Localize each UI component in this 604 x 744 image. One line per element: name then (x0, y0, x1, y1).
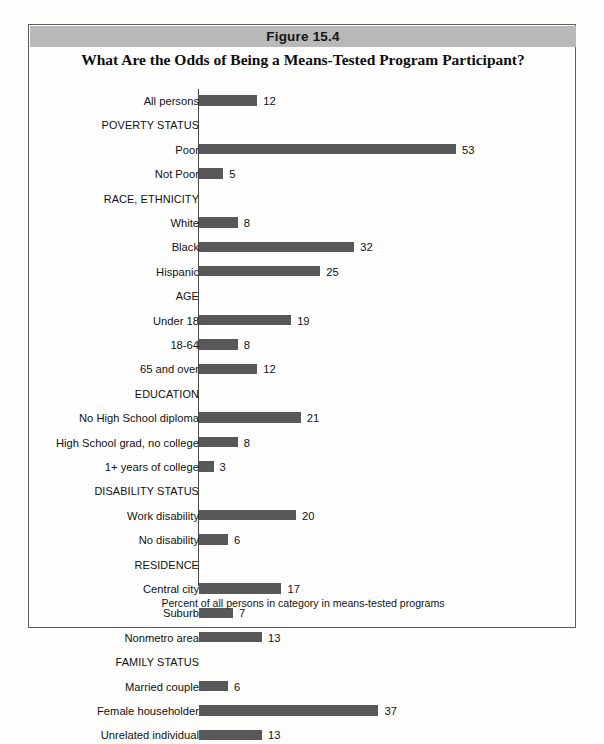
group-header-label: RESIDENCE (0, 553, 199, 577)
bar-category-label: 65 and over (0, 357, 199, 381)
bar (199, 437, 238, 448)
figure-number-band: Figure 15.4 (30, 26, 576, 47)
bar-category-label: Female householder (0, 699, 199, 723)
bar-row: Unrelated individual13 (29, 723, 577, 744)
bar-value-label: 3 (220, 455, 226, 479)
group-header-label: DISABILITY STATUS (0, 479, 199, 503)
bar (199, 339, 238, 350)
group-header-row: EDUCATION (29, 382, 577, 406)
bar-row: Nonmetro area13 (29, 626, 577, 650)
bar-value-label: 20 (302, 504, 314, 528)
bar (199, 608, 233, 619)
group-header-row: FAMILY STATUS (29, 650, 577, 674)
chart-footnote: Percent of all persons in category in me… (29, 597, 577, 609)
bar-category-label: No disability (0, 528, 199, 552)
bar-row: Under 1819 (29, 309, 577, 333)
bar-value-label: 25 (326, 260, 338, 284)
figure-title: What Are the Odds of Being a Means-Teste… (29, 51, 577, 69)
bar-category-label: 1+ years of college (0, 455, 199, 479)
bar (199, 412, 301, 423)
bar (199, 95, 257, 106)
bar-category-label: All persons (0, 89, 199, 113)
figure-number-label: Figure 15.4 (266, 29, 339, 44)
bar-row: High School grad, no college8 (29, 431, 577, 455)
bar-value-label: 12 (263, 89, 275, 113)
bar-category-label: Not Poor (0, 162, 199, 186)
bar-category-label: High School grad, no college (0, 431, 199, 455)
bar-row: All persons12 (29, 89, 577, 113)
bar-value-label: 53 (462, 138, 474, 162)
bar-row: 18-648 (29, 333, 577, 357)
bar-category-label: Work disability (0, 504, 199, 528)
bar-category-label: Poor (0, 138, 199, 162)
bar-value-label: 8 (244, 431, 250, 455)
figure-box: Figure 15.4 What Are the Odds of Being a… (28, 24, 576, 628)
bar-row: Poor53 (29, 138, 577, 162)
bar (199, 315, 291, 326)
bar (199, 217, 238, 228)
bar (199, 583, 281, 594)
bar-value-label: 37 (384, 699, 396, 723)
group-header-label: POVERTY STATUS (0, 113, 199, 137)
bar (199, 510, 296, 521)
bar-row: Not Poor5 (29, 162, 577, 186)
bar (199, 534, 228, 545)
bar (199, 242, 354, 253)
bar (199, 364, 257, 375)
bar-value-label: 8 (244, 333, 250, 357)
group-header-label: FAMILY STATUS (0, 650, 199, 674)
bar-category-label: Under 18 (0, 309, 199, 333)
bar (199, 632, 262, 643)
bar-value-label: 6 (234, 528, 240, 552)
bar-row: White8 (29, 211, 577, 235)
bar-value-label: 8 (244, 211, 250, 235)
bar-value-label: 5 (229, 162, 235, 186)
bar-category-label: Black (0, 235, 199, 259)
bar-category-label: Married couple (0, 675, 199, 699)
bar-value-label: 32 (360, 235, 372, 259)
bar-category-label: Unrelated individual (0, 723, 199, 744)
group-header-row: RESIDENCE (29, 553, 577, 577)
bar (199, 681, 228, 692)
bar-row: Married couple6 (29, 675, 577, 699)
group-header-row: AGE (29, 284, 577, 308)
bar-row: Female householder37 (29, 699, 577, 723)
bar-chart-plot: All persons12POVERTY STATUSPoor53Not Poo… (29, 89, 577, 589)
bar (199, 266, 320, 277)
bar (199, 168, 223, 179)
bar-row: Work disability20 (29, 504, 577, 528)
group-header-label: EDUCATION (0, 382, 199, 406)
bar-category-label: 18-64 (0, 333, 199, 357)
bar-value-label: 19 (297, 309, 309, 333)
bar-value-label: 12 (263, 357, 275, 381)
bar-value-label: 21 (307, 406, 319, 430)
bar-category-label: White (0, 211, 199, 235)
bar-value-label: 6 (234, 675, 240, 699)
bar (199, 730, 262, 741)
bar-row: Hispanic25 (29, 260, 577, 284)
bar-value-label: 13 (268, 723, 280, 744)
bar-row: 65 and over12 (29, 357, 577, 381)
bar (199, 461, 214, 472)
bar-row: No High School diploma21 (29, 406, 577, 430)
bar (199, 705, 378, 716)
bar-value-label: 13 (268, 626, 280, 650)
bar-category-label: No High School diploma (0, 406, 199, 430)
bar-category-label: Nonmetro area (0, 626, 199, 650)
group-header-row: DISABILITY STATUS (29, 479, 577, 503)
group-header-label: RACE, ETHNICITY (0, 187, 199, 211)
bar-row: No disability6 (29, 528, 577, 552)
group-header-row: RACE, ETHNICITY (29, 187, 577, 211)
bar-row: 1+ years of college3 (29, 455, 577, 479)
bar (199, 144, 456, 155)
bar-category-label: Hispanic (0, 260, 199, 284)
group-header-label: AGE (0, 284, 199, 308)
bar-row: Black32 (29, 235, 577, 259)
group-header-row: POVERTY STATUS (29, 113, 577, 137)
